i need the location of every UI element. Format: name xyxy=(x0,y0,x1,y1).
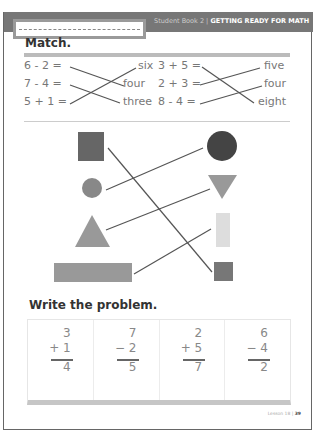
problem-result: 2 xyxy=(260,360,268,374)
shape-match-line xyxy=(134,229,211,274)
long-rectangle-shape xyxy=(54,263,132,282)
problem-result: 4 xyxy=(63,360,71,374)
shape-match-line xyxy=(106,189,210,230)
problem-result: 5 xyxy=(129,360,137,374)
operator: + xyxy=(49,341,59,355)
problem-bottom: 4 xyxy=(260,341,268,355)
problem-cell[interactable]: 2 + 5 7 xyxy=(160,320,226,400)
dark-circle-shape xyxy=(207,131,237,161)
problem-top: 3 xyxy=(63,326,71,340)
problem-top: 2 xyxy=(195,326,203,340)
problem-cell[interactable]: 3 + 1 4 xyxy=(28,320,94,400)
problem-bottom-line: − 4 xyxy=(246,341,268,355)
shape-match-line xyxy=(106,148,203,190)
problem-bottom-line: + 5 xyxy=(181,341,203,355)
triangle-shape xyxy=(75,215,110,247)
lesson-label: Lesson 18 xyxy=(268,411,291,416)
dark-square-shape xyxy=(78,132,104,161)
operator: − xyxy=(115,341,125,355)
write-problems: 3 + 1 4 7 − 2 5 2 + 5 7 6 − 4 2 xyxy=(27,319,291,405)
page-footer: Lesson 18 | 39 xyxy=(268,411,301,416)
problem-bottom-line: − 2 xyxy=(115,341,137,355)
operator: + xyxy=(181,341,191,355)
inverted-triangle-shape xyxy=(208,175,237,199)
problem-bottom: 2 xyxy=(129,341,137,355)
operator: − xyxy=(246,341,256,355)
write-heading: Write the problem. xyxy=(29,298,157,312)
problem-bottom: 5 xyxy=(195,341,203,355)
small-square-shape xyxy=(214,262,233,281)
page-number: 39 xyxy=(295,411,301,416)
problem-cell[interactable]: 6 − 4 2 xyxy=(225,320,290,400)
problem-bottom-line: + 1 xyxy=(49,341,71,355)
problem-result: 7 xyxy=(195,360,203,374)
problem-cell[interactable]: 7 − 2 5 xyxy=(94,320,160,400)
problem-bottom: 1 xyxy=(63,341,71,355)
problem-top: 7 xyxy=(129,326,137,340)
problem-top: 6 xyxy=(260,326,268,340)
tall-rectangle-shape xyxy=(216,213,230,247)
small-circle-shape xyxy=(82,178,102,198)
